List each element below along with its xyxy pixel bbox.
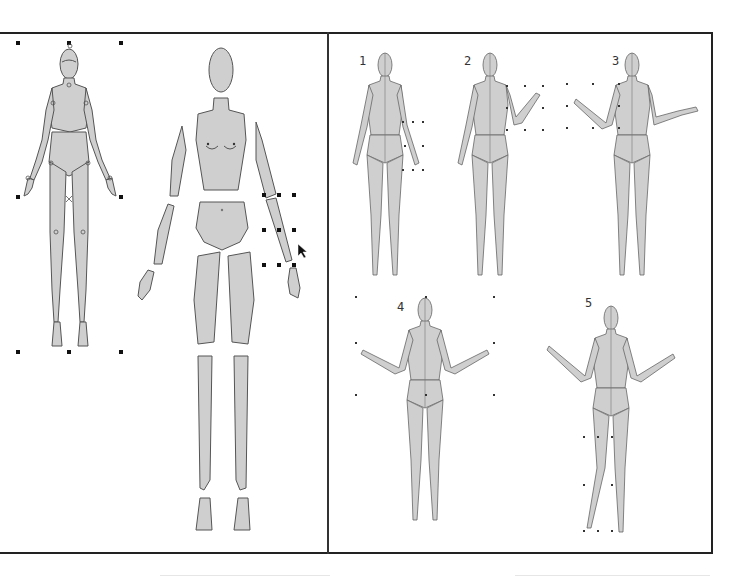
part-left-shin[interactable] (198, 356, 212, 490)
faint-artifact (515, 575, 710, 576)
part-left-forearm[interactable] (154, 204, 174, 264)
part-left-hand[interactable] (138, 270, 154, 300)
part-right-foot[interactable] (234, 498, 250, 530)
pose-label-2: 2 (464, 54, 471, 68)
part-right-hand[interactable] (288, 268, 300, 298)
part-left-upper-arm[interactable] (170, 126, 186, 196)
frame-bottom-border (0, 552, 713, 554)
part-head[interactable] (209, 48, 233, 92)
pose-variations-panel: 1 2 3 4 5 (329, 34, 711, 552)
pose-1-figure[interactable] (353, 53, 424, 275)
cursor-arrow-icon (298, 244, 307, 258)
part-left-foot[interactable] (196, 498, 212, 530)
part-right-thigh[interactable] (228, 252, 254, 344)
pose-5-figure[interactable] (547, 306, 675, 532)
pose-label-1: 1 (359, 54, 366, 68)
part-torso[interactable] (196, 98, 246, 190)
faint-artifact (160, 575, 330, 576)
part-right-upper-arm[interactable] (256, 122, 276, 198)
exploded-figure (138, 48, 300, 530)
right-panel-artwork (329, 34, 711, 552)
pose-label-5: 5 (585, 296, 592, 310)
pose-4-figure[interactable] (355, 296, 495, 520)
pose-label-4: 4 (397, 300, 404, 314)
frame-right-border (711, 32, 713, 554)
left-panel-artwork (0, 34, 327, 552)
drawing-canvas[interactable]: 1 2 3 4 5 (0, 0, 739, 579)
pose-2-figure[interactable] (458, 53, 544, 275)
part-left-thigh[interactable] (194, 252, 220, 344)
part-right-shin[interactable] (234, 356, 248, 490)
pose-3-figure[interactable] (566, 53, 698, 275)
pose-label-3: 3 (612, 54, 619, 68)
assembled-figure-panel (0, 34, 327, 552)
